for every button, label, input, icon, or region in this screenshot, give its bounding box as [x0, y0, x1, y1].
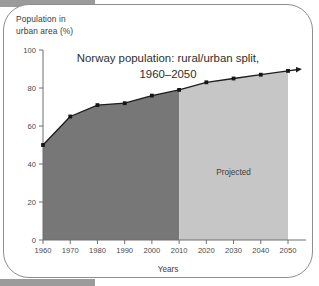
x-tick-label: 2000: [143, 246, 160, 255]
y-axis-ticks: 020406080100: [23, 46, 43, 245]
area-projected: [179, 71, 288, 240]
data-point-marker: [68, 115, 72, 119]
data-point-marker: [204, 80, 208, 84]
trend-arrow-icon: [296, 67, 302, 73]
y-tick-label: 100: [23, 46, 36, 55]
projected-annotation: Projected: [216, 168, 251, 177]
x-tick-label: 1990: [116, 246, 133, 255]
data-point-marker: [123, 101, 127, 105]
x-tick-label: 2050: [280, 246, 297, 255]
data-point-marker: [286, 69, 290, 73]
x-tick-label: 1970: [62, 246, 79, 255]
x-tick-label: 1960: [35, 246, 52, 255]
data-point-marker: [177, 88, 181, 92]
data-point-marker: [259, 73, 263, 77]
y-tick-label: 20: [28, 198, 36, 207]
x-axis-caption: Years: [158, 265, 179, 274]
data-point-marker: [96, 103, 100, 107]
y-tick-label: 60: [28, 122, 36, 131]
y-tick-label: 80: [28, 84, 36, 93]
x-tick-label: 2040: [252, 246, 269, 255]
x-tick-label: 2010: [171, 246, 188, 255]
x-tick-label: 2020: [198, 246, 215, 255]
area-historical: [43, 90, 179, 240]
x-axis-ticks: 1960197019801990200020102020203020402050: [35, 240, 297, 255]
x-tick-label: 1980: [89, 246, 106, 255]
chart-title-line1: Norway population: rural/urban split,: [77, 52, 259, 64]
x-tick-label: 2030: [225, 246, 242, 255]
y-tick-label: 0: [32, 236, 36, 245]
y-tick-label: 40: [28, 160, 36, 169]
data-point-marker: [150, 94, 154, 98]
chart-canvas: 020406080100 196019701980199020002010202…: [0, 0, 319, 286]
chart-title-line2: 1960–2050: [139, 68, 196, 80]
data-point-marker: [41, 143, 45, 147]
data-point-marker: [232, 77, 236, 81]
